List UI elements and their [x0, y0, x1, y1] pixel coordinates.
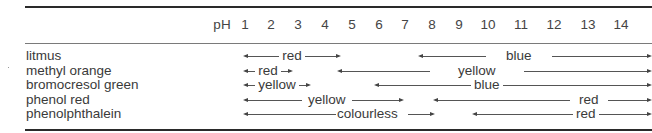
- arrow-right-icon: [430, 112, 435, 116]
- ph-column-14: 14: [613, 17, 628, 32]
- range-label: blue: [486, 49, 552, 63]
- range-label: colourless: [336, 107, 408, 121]
- arrow-right-icon: [288, 69, 293, 73]
- indicator-name: litmus: [26, 49, 61, 63]
- ph-column-8: 8: [428, 17, 436, 32]
- arrow-right-icon: [647, 54, 652, 58]
- ph-column-2: 2: [267, 17, 275, 32]
- bottom-rule: [25, 129, 652, 131]
- range-arrow-red: red: [472, 107, 652, 121]
- range-arrow-blue: blue: [374, 78, 652, 92]
- indicator-name: phenol red: [26, 93, 90, 107]
- arrow-right-icon: [647, 98, 652, 102]
- range-arrow-red: red: [433, 93, 652, 107]
- arrow-right-icon: [336, 54, 341, 58]
- arrow-right-icon: [647, 83, 652, 87]
- range-label: red: [570, 93, 608, 107]
- range-arrow-yellow: yellow: [337, 64, 652, 78]
- range-label: red: [279, 49, 305, 63]
- range-arrow-red: red: [243, 49, 341, 63]
- arrow-right-icon: [647, 112, 652, 116]
- ph-column-5: 5: [348, 17, 356, 32]
- arrow-right-icon: [647, 69, 652, 73]
- arrow-right-icon: [399, 98, 404, 102]
- range-label: yellow: [255, 78, 299, 92]
- ph-column-12: 12: [546, 17, 561, 32]
- ph-column-4: 4: [321, 17, 329, 32]
- arrow-right-icon: [306, 83, 311, 87]
- range-label: blue: [471, 78, 503, 92]
- range-label: yellow: [430, 64, 524, 78]
- range-arrow-yellow: yellow: [243, 78, 311, 92]
- indicator-name: phenolphthalein: [26, 107, 121, 121]
- ph-column-3: 3: [294, 17, 302, 32]
- ph-column-9: 9: [455, 17, 463, 32]
- range-label: red: [255, 64, 281, 78]
- top-rule: [25, 6, 652, 8]
- ph-column-10: 10: [480, 17, 495, 32]
- stray-mark: [8, 67, 9, 68]
- ph-column-7: 7: [401, 17, 409, 32]
- range-arrow-blue: blue: [418, 49, 652, 63]
- ph-column-11: 11: [514, 17, 528, 32]
- range-arrow-colourless: colourless: [243, 107, 435, 121]
- indicator-name: bromocresol green: [26, 78, 139, 92]
- range-label: red: [573, 107, 599, 121]
- ph-column-1: 1: [241, 17, 249, 32]
- ph-column-6: 6: [375, 17, 383, 32]
- range-arrow-red: red: [243, 64, 293, 78]
- header-divider: [25, 43, 652, 44]
- indicator-name: methyl orange: [26, 64, 112, 78]
- range-label: yellow: [302, 93, 352, 107]
- range-arrow-yellow: yellow: [243, 93, 404, 107]
- ph-header-label: pH: [213, 17, 230, 32]
- ph-column-13: 13: [580, 17, 595, 32]
